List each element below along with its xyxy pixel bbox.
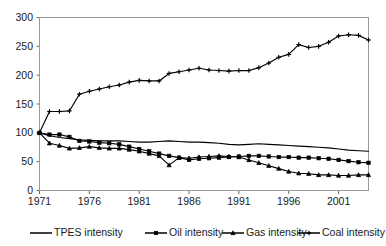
data-point-cross xyxy=(117,83,122,88)
data-point-cross xyxy=(276,55,281,60)
legend-item-tpes-intensity[interactable]: TPES intensity xyxy=(30,226,124,238)
y-tick-label: 150 xyxy=(15,98,33,110)
data-point-cross xyxy=(306,45,311,50)
y-tick-label: 250 xyxy=(15,40,33,52)
data-point-cross xyxy=(356,33,361,38)
legend-item-coal-intensity[interactable]: Coal intensity xyxy=(298,226,386,238)
y-tick-label: 200 xyxy=(15,69,33,81)
y-tick-label: 50 xyxy=(21,155,33,167)
x-axis-tick-labels: 1971197619811986199119962001 xyxy=(28,195,351,207)
data-point-square xyxy=(347,159,350,162)
data-point-cross xyxy=(237,68,242,73)
plot-frame xyxy=(40,18,369,191)
data-point-square xyxy=(257,154,260,157)
data-point-cross xyxy=(47,109,52,114)
x-tick-label: 1976 xyxy=(78,195,102,207)
data-point-square xyxy=(317,157,320,160)
data-point-square xyxy=(307,156,310,159)
data-point-square xyxy=(78,139,81,142)
data-point-square xyxy=(277,155,280,158)
legend-label: Coal intensity xyxy=(322,226,386,238)
legend-label: TPES intensity xyxy=(54,226,124,238)
data-point-square xyxy=(48,133,51,136)
data-point-cross xyxy=(127,80,132,85)
data-point-cross xyxy=(97,87,102,92)
y-axis-tick-labels: 050100150200250300 xyxy=(15,11,33,196)
data-point-square xyxy=(337,158,340,161)
data-point-cross xyxy=(137,78,142,83)
x-tick-label: 1996 xyxy=(277,195,301,207)
data-point-cross xyxy=(207,68,212,73)
data-point-cross xyxy=(346,33,351,38)
data-point-square xyxy=(367,161,370,164)
x-tick-label: 1986 xyxy=(177,195,201,207)
x-tick-label: 1991 xyxy=(227,195,251,207)
series-line xyxy=(40,35,369,133)
data-point-square xyxy=(98,141,101,144)
series-layer xyxy=(37,33,371,178)
data-point-cross xyxy=(57,109,62,114)
data-point-cross xyxy=(87,89,92,94)
x-tick-label: 2001 xyxy=(327,195,351,207)
data-point-cross xyxy=(217,68,222,73)
legend-item-oil-intensity[interactable]: Oil intensity xyxy=(145,226,224,238)
x-tick-label: 1981 xyxy=(128,195,152,207)
legend-label: Gas intensity xyxy=(246,226,307,238)
data-point-cross xyxy=(187,68,192,73)
data-point-cross xyxy=(247,68,252,73)
data-point-cross xyxy=(197,66,202,71)
chart-legend: TPES intensityOil intensityGas intensity… xyxy=(30,226,386,238)
legend-label: Oil intensity xyxy=(169,226,224,238)
data-point-cross xyxy=(107,84,112,89)
data-point-square xyxy=(58,133,61,136)
data-point-cross xyxy=(267,61,272,66)
series-gas-intensity xyxy=(37,131,370,178)
data-point-square xyxy=(167,154,170,157)
y-tick-label: 300 xyxy=(15,11,33,23)
data-point-square xyxy=(287,155,290,158)
data-point-cross xyxy=(366,38,371,43)
data-point-square xyxy=(327,157,330,160)
axis-tick-marks xyxy=(37,18,339,195)
data-point-cross-legend xyxy=(307,231,312,236)
data-point-square xyxy=(357,161,360,164)
series-coal-intensity xyxy=(37,33,371,136)
data-point-cross xyxy=(177,69,182,74)
data-point-square xyxy=(108,142,111,145)
data-point-square xyxy=(297,156,300,159)
data-point-square xyxy=(267,155,270,158)
data-point-cross xyxy=(257,65,262,70)
x-tick-label: 1971 xyxy=(28,195,52,207)
data-point-square xyxy=(88,140,91,143)
chart-canvas: 050100150200250300 197119761981198619911… xyxy=(0,0,386,246)
data-point-cross xyxy=(316,44,321,49)
data-point-square-legend xyxy=(154,231,157,234)
legend-item-gas-intensity[interactable]: Gas intensity xyxy=(222,226,307,238)
series-line xyxy=(40,133,369,176)
data-point-square xyxy=(68,135,71,138)
data-point-cross xyxy=(147,79,152,84)
energy-intensity-chart: 050100150200250300 197119761981198619911… xyxy=(0,0,386,246)
y-tick-label: 100 xyxy=(15,126,33,138)
data-point-cross xyxy=(227,69,232,74)
